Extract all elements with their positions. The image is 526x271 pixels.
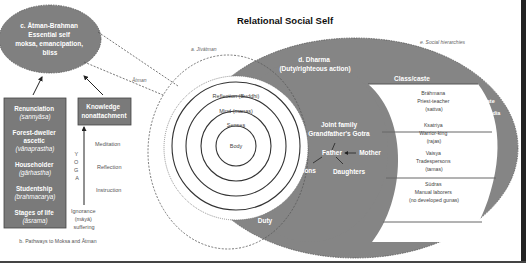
family-father-label: Father xyxy=(322,149,342,156)
caste-header: Class/caste xyxy=(394,75,430,82)
yoga-step-instruction: Instruction xyxy=(96,187,121,193)
arrow-stages-to-atman xyxy=(33,77,42,95)
family-gotra-label: Grandfather's Gotra xyxy=(308,130,370,137)
family-joint-label: Joint family xyxy=(321,121,358,129)
stage-householder: Householder (gārhastha) xyxy=(15,161,55,177)
family-daughters-label: Daughters xyxy=(333,168,366,176)
atman-dashed-line-lower xyxy=(84,62,163,95)
atman-label: Ātman xyxy=(131,77,147,83)
circle-label-mind: Mind (manas) xyxy=(219,108,253,114)
relational-social-self-diagram: Relational Social Self c. Ātman-Brahman … xyxy=(0,0,526,271)
yoga-step-meditation: Meditation xyxy=(95,141,120,147)
family-mother-label: Mother xyxy=(359,149,381,156)
yoga-step-reflection: Reflection xyxy=(97,164,121,170)
ignorance-label: Ignorance (māyā) suffering xyxy=(71,208,97,230)
jivatman-label: a. Jīvātman xyxy=(191,46,217,52)
diagram-title: Relational Social Self xyxy=(237,15,334,26)
social-hierarchies-label: e. Social hierarchies xyxy=(420,39,466,45)
pathways-caption: b. Pathways to Moksa and Ātman xyxy=(19,238,96,244)
circle-label-body: Body xyxy=(230,143,243,149)
arrow-knowledge-to-atman xyxy=(84,76,103,95)
stage-renunciation: Renunciation (sannyāsa) xyxy=(14,105,56,121)
stage-studentship: Studentship (brahmacarya) xyxy=(15,185,56,201)
circle-label-reflection: Reflection (Buddhi) xyxy=(213,93,260,99)
family-sons-label: Sons xyxy=(300,167,316,174)
state-label: State xyxy=(481,98,494,104)
atman-brahman-ellipse xyxy=(0,5,101,73)
frame-right-border xyxy=(521,0,526,262)
duty-label: Duty xyxy=(258,217,273,225)
circle-label-senses: Senses xyxy=(227,122,246,128)
yoga-label: Y O G A xyxy=(74,151,80,181)
frame-bottom-border xyxy=(0,261,526,263)
india-label: India xyxy=(488,110,502,116)
